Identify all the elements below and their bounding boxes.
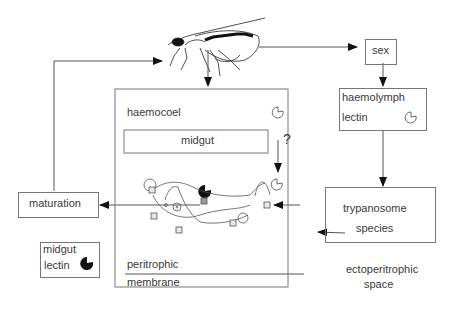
trypanosome-species-box	[325, 187, 436, 243]
haemolymph-label: haemolymph	[342, 91, 405, 103]
space-label: space	[364, 278, 393, 290]
haemocoel-label: haemocoel	[127, 106, 181, 118]
ectoperitrophic-label: ectoperitrophic	[346, 263, 418, 275]
maturation-label: maturation	[29, 197, 81, 209]
peritrophic-label: peritrophic	[127, 258, 178, 270]
midgut-lectin-label-1: midgut	[43, 243, 76, 255]
tsetse-fly-icon	[168, 18, 265, 76]
haemolymph-lectin-label: lectin	[342, 111, 368, 123]
species-label: species	[356, 222, 393, 234]
trypanosome-label: trypanosome	[343, 202, 407, 214]
haemolymph-lectin-icon	[271, 179, 282, 190]
midgut-label: midgut	[181, 134, 214, 146]
sex-label: sex	[372, 44, 389, 56]
midgut-lectin-label-2: lectin	[44, 259, 70, 271]
question-mark: ?	[283, 131, 291, 147]
membrane-label: membrane	[127, 276, 180, 288]
haemolymph-lectin-icon	[272, 107, 283, 118]
